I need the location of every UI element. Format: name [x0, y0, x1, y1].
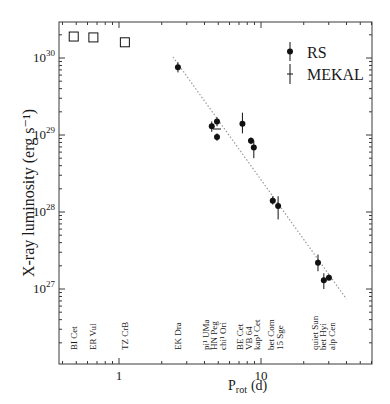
star-label: EK Dra	[173, 322, 183, 350]
data-point-marker	[175, 64, 181, 70]
data-point-marker	[251, 144, 257, 150]
star-label: ER Vul	[88, 323, 98, 350]
open-square-marker	[89, 33, 98, 42]
star-label: TZ CrB	[120, 322, 130, 350]
star-label: kap¹ Cet	[252, 319, 262, 350]
x-axis-label: Prot(d)	[228, 378, 268, 395]
data-point-marker	[270, 198, 276, 204]
open-square-marker	[120, 38, 129, 47]
data-point-marker	[239, 121, 245, 127]
data-point-marker	[326, 275, 332, 281]
data-point-marker	[214, 134, 220, 140]
legend-rs-marker	[287, 42, 293, 61]
chart: 1027102810291030 110 BI CetER VulTZ CrBE…	[0, 0, 390, 404]
x-axis-label-unit: (d)	[251, 378, 268, 394]
open-square-marker	[69, 32, 78, 41]
y-tick-label: 1027	[33, 279, 56, 296]
x-axis-label-sub: rot	[236, 384, 247, 395]
y-tick-label: 1030	[33, 48, 56, 65]
data-point-marker	[315, 260, 321, 266]
legend: RS MEKAL	[287, 42, 364, 84]
data-point-marker	[248, 138, 254, 144]
data-point-marker	[321, 277, 327, 283]
legend-mekal-label: MEKAL	[307, 66, 364, 83]
x-tick-labels: 110	[116, 368, 268, 383]
star-annotations: BI CetER VulTZ CrBEK Drapi¹ UMaHN Pegchi…	[69, 315, 337, 350]
legend-rs-label: RS	[307, 44, 327, 61]
x-tick-label: 1	[116, 368, 123, 383]
star-label: chi¹ Ori	[218, 322, 228, 350]
legend-mekal-marker	[287, 64, 293, 84]
data-markers	[69, 32, 332, 289]
data-point-marker	[275, 203, 281, 209]
data-point-marker	[214, 118, 220, 124]
star-label: 15 Sge	[275, 325, 285, 350]
y-axis-label: X-ray luminosity (erg s⁻¹)	[20, 109, 38, 277]
star-label: alp Cen	[327, 322, 337, 350]
star-label: BI Cet	[69, 326, 79, 350]
x-axis-label-main: P	[228, 378, 236, 393]
data-point-marker	[209, 123, 215, 129]
